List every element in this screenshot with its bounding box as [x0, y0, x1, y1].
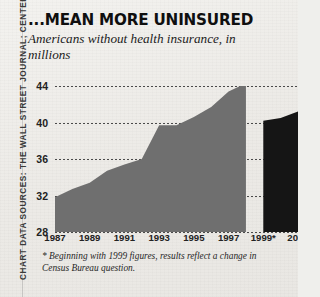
x-axis-label: 1999* [251, 232, 276, 243]
chart-subtitle: Americans without health insurance, in m… [28, 31, 268, 63]
x-axis-label: 2001 [287, 232, 298, 243]
y-axis-label: 44 [26, 80, 48, 92]
x-axis-label: 1987 [44, 232, 65, 243]
chart-panel: ...MEAN MORE UNINSURED Americans without… [26, 0, 298, 297]
x-axis-label: 1993 [148, 232, 169, 243]
x-axis-label: 1991 [114, 232, 135, 243]
y-axis-label: 32 [26, 190, 48, 202]
chart-title: ...MEAN MORE UNINSURED [28, 10, 253, 29]
y-axis-label: 40 [26, 117, 48, 129]
y-axis-label: 36 [26, 153, 48, 165]
area-series-dark [263, 112, 298, 232]
x-axis-label: 1997 [218, 232, 239, 243]
area-chart-svg [55, 86, 298, 232]
chart-footnote: * Beginning with 1999 figures, results r… [42, 250, 267, 275]
area-series-container [55, 86, 298, 232]
plot-area: 4440363228 [26, 86, 298, 232]
x-axis-label: 1989 [79, 232, 100, 243]
x-axis-label: 1995 [183, 232, 204, 243]
area-series-gray [55, 86, 246, 232]
x-axis-labels: 1987198919911993199519971999*2001 [55, 232, 298, 246]
